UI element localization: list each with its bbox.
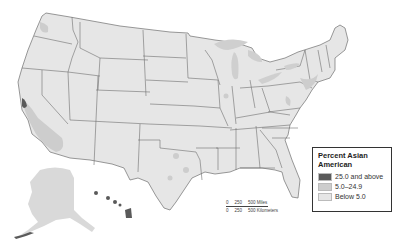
legend-item-high: 25.0 and above (318, 172, 386, 181)
legend-label-low: Below 5.0 (335, 193, 366, 200)
legend-swatch-mid (318, 183, 332, 191)
alaska (16, 168, 95, 239)
legend-swatch-high (318, 173, 332, 181)
scale-miles-250: 250 (235, 200, 243, 205)
legend-swatch-low (318, 193, 332, 201)
hawaii (94, 191, 132, 218)
legend-item-mid: 5.0–24.9 (318, 182, 386, 191)
legend-label-mid: 5.0–24.9 (335, 183, 362, 190)
scale-miles-500: 500 Miles (248, 200, 267, 205)
scale-miles-0: 0 (226, 200, 229, 205)
map-legend: Percent Asian American 25.0 and above 5.… (312, 147, 392, 212)
legend-item-low: Below 5.0 (318, 192, 386, 201)
scale-bar: 0 250 500 Miles 0 250 500 Kilometers (226, 200, 278, 213)
scale-km-250: 250 (235, 208, 243, 213)
legend-title: Percent Asian American (318, 152, 386, 169)
scale-km-0: 0 (226, 208, 229, 213)
scale-km-500: 500 Kilometers (248, 208, 278, 213)
scale-bar-line (226, 206, 268, 207)
legend-label-high: 25.0 and above (335, 173, 383, 180)
